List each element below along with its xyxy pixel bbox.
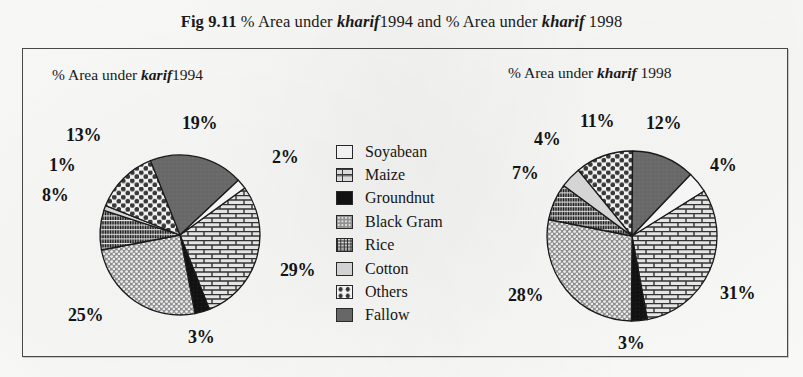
pie-value-label: 3% xyxy=(188,327,215,348)
right-chart-title-year: 1998 xyxy=(641,64,672,81)
chart-legend: SoyabeanMaizeGroundnutBlack GramRiceCott… xyxy=(336,140,506,327)
legend-label: Fallow xyxy=(365,306,409,324)
legend-swatch-big-dots xyxy=(336,285,353,299)
legend-item-black-gram: Black Gram xyxy=(336,210,506,233)
pie-value-label: 3% xyxy=(618,333,645,354)
pie-1994-slices xyxy=(100,155,260,315)
legend-item-groundnut: Groundnut xyxy=(336,187,506,210)
pie-value-label: 7% xyxy=(512,163,539,184)
pie-chart-1994: 19%2%29%3%25%8%1%13% xyxy=(40,105,340,355)
pie-value-label: 4% xyxy=(710,155,737,176)
legend-item-cotton: Cotton xyxy=(336,257,506,280)
pie-value-label: 28% xyxy=(508,285,543,306)
pie-slice-black-gram xyxy=(547,219,632,321)
right-chart-title: % Area under kharif 1998 xyxy=(508,64,672,82)
legend-item-fallow: Fallow xyxy=(336,304,506,327)
legend-swatch-brick xyxy=(336,168,353,182)
legend-swatch-dots xyxy=(336,215,353,229)
pie-value-label: 4% xyxy=(534,129,561,150)
legend-item-rice: Rice xyxy=(336,234,506,257)
legend-item-soyabean: Soyabean xyxy=(336,140,506,163)
legend-label: Groundnut xyxy=(365,189,434,207)
legend-label: Soyabean xyxy=(365,143,427,161)
figure-caption-kharif-2: kharif xyxy=(542,12,585,31)
pie-value-label: 8% xyxy=(42,185,69,206)
pie-1998-slices xyxy=(547,151,717,321)
pie-value-label: 2% xyxy=(272,147,299,168)
left-chart-title-prefix: % Area under xyxy=(52,66,141,83)
figure-caption-year-2: 1998 xyxy=(589,12,622,31)
pie-value-label: 1% xyxy=(49,155,76,176)
pie-value-label: 25% xyxy=(68,305,103,326)
right-chart-title-prefix: % Area under xyxy=(508,64,597,81)
pie-chart-1998: 12%4%31%3%28%7%4%11% xyxy=(498,105,788,355)
pie-value-label: 29% xyxy=(280,260,315,281)
legend-swatch-grid-hatch xyxy=(336,238,353,252)
figure-number: Fig 9.11 xyxy=(181,12,237,31)
pie-value-label: 13% xyxy=(66,125,101,146)
legend-item-others: Others xyxy=(336,280,506,303)
legend-label: Maize xyxy=(365,166,405,184)
figure-caption: Fig 9.11 % Area under kharif1994 and % A… xyxy=(0,12,803,32)
figure-caption-year-1: 1994 xyxy=(380,12,413,31)
legend-label: Others xyxy=(365,283,408,301)
legend-label: Cotton xyxy=(365,260,409,278)
pie-value-label: 19% xyxy=(182,113,217,134)
figure-caption-mid: and % Area under xyxy=(413,12,542,31)
legend-swatch-solid-gray xyxy=(336,308,353,322)
left-chart-title-year: 1994 xyxy=(172,66,203,83)
legend-item-maize: Maize xyxy=(336,163,506,186)
left-chart-title: % Area under karif1994 xyxy=(52,66,203,84)
left-chart-title-italic: karif xyxy=(141,66,172,83)
figure-caption-kharif-1: kharif xyxy=(337,12,380,31)
legend-label: Rice xyxy=(365,236,394,254)
pie-value-label: 12% xyxy=(646,113,681,134)
pie-value-label: 11% xyxy=(580,111,614,132)
legend-label: Black Gram xyxy=(365,213,443,231)
right-chart-title-italic: kharif xyxy=(597,64,637,81)
pie-value-label: 31% xyxy=(720,283,755,304)
figure-caption-part1: % Area under xyxy=(241,12,337,31)
legend-swatch-solid-black xyxy=(336,191,353,205)
legend-swatch-solid-white xyxy=(336,145,353,159)
legend-swatch-solid-light xyxy=(336,262,353,276)
